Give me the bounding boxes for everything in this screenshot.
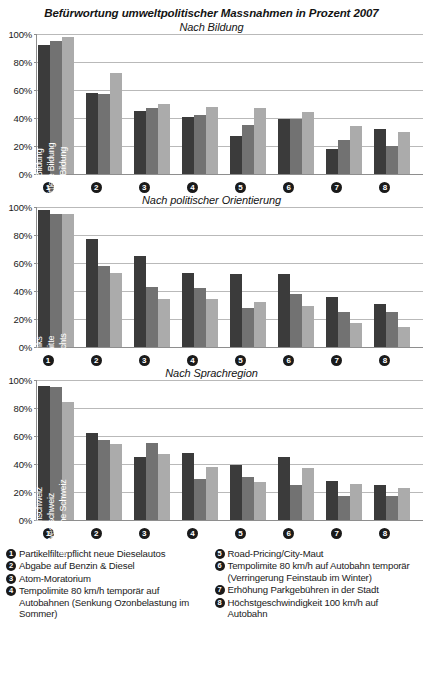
bar-group: [182, 207, 230, 347]
y-axis-tick-label: 100%: [9, 375, 33, 386]
footnote-text: Tempolimite 80 km/h auf Autobahn temporä…: [228, 560, 418, 583]
bar: [242, 125, 254, 174]
category-badge: 6: [283, 182, 294, 193]
bar: [290, 294, 302, 347]
chart-2: Nach politischer Orientierung100%80%60%4…: [0, 194, 423, 367]
x-axis-tick: 6: [278, 520, 326, 540]
bar: [386, 496, 398, 520]
y-axis-tick-label: 60%: [14, 258, 32, 269]
bar: [386, 312, 398, 347]
category-badge: 2: [91, 182, 102, 193]
bar: [146, 443, 158, 520]
bar: Westschweiz: [50, 387, 62, 520]
bar: links: [38, 210, 50, 347]
bar: [134, 256, 146, 347]
bar: [386, 146, 398, 174]
x-axis-tick: 4: [181, 520, 229, 540]
bar: [242, 477, 254, 520]
y-axis-tick-label: 80%: [14, 403, 32, 414]
bar-group: [326, 207, 374, 347]
y-axis-tick-label: 20%: [14, 314, 32, 325]
bar: [326, 481, 338, 520]
bar: [110, 273, 122, 347]
y-axis: 100%80%60%40%20%0%: [0, 34, 36, 174]
x-axis-tick: 8: [374, 174, 422, 194]
bar: [98, 94, 110, 174]
category-badge: 7: [331, 355, 342, 366]
bar: [278, 119, 290, 174]
bar: [398, 327, 410, 347]
plot-area: linksmitterechts: [36, 207, 423, 347]
bar: rechts: [62, 214, 74, 347]
category-badge: 5: [235, 355, 246, 366]
x-axis-tick: 2: [85, 174, 133, 194]
bar-group: [86, 34, 134, 174]
bar: hohe Bildung: [62, 37, 74, 174]
bar-group: tiefe Bildungmittlere Bildunghohe Bildun…: [38, 34, 86, 174]
axis-baseline: [37, 347, 423, 348]
category-badge: 8: [379, 528, 390, 539]
plot-wrapper: 100%80%60%40%20%0%tiefe Bildungmittlere …: [0, 34, 423, 174]
x-axis: 12345678: [36, 520, 423, 540]
bar: [278, 457, 290, 520]
footnote-legend: 1Partikelfilterpflicht neue Dieselautos2…: [0, 540, 423, 620]
axis-baseline: [37, 520, 423, 521]
x-axis-tick: 7: [326, 174, 374, 194]
bar: [182, 273, 194, 347]
bar: [206, 299, 218, 347]
bar: [350, 323, 362, 347]
category-badge: 6: [283, 528, 294, 539]
bar-group: [230, 34, 278, 174]
bar-group: [230, 207, 278, 347]
footnote-column-left: 1Partikelfilterpflicht neue Dieselautos2…: [6, 548, 209, 620]
x-axis-tick: 6: [278, 347, 326, 367]
bar: [98, 266, 110, 347]
bar-group: linksmitterechts: [38, 207, 86, 347]
footnote-column-right: 5Road-Pricing/City-Maut6Tempolimite 80 k…: [215, 548, 418, 620]
bar: [290, 485, 302, 520]
chart-subtitle: Nach politischer Orientierung: [0, 194, 423, 206]
bars-layer: DeutschschweizWestschweizItalienische Sc…: [37, 380, 423, 520]
chart-page: Befürwortung umweltpolitischer Massnahme…: [0, 0, 423, 688]
footnote-badge: 7: [215, 585, 225, 595]
footnote-badge: 4: [6, 586, 16, 596]
category-badge: 4: [187, 355, 198, 366]
bar: [326, 297, 338, 347]
bar: [158, 299, 170, 347]
bar: mittlere Bildung: [50, 41, 62, 174]
y-axis-tick-label: 40%: [14, 286, 32, 297]
x-axis-tick: 3: [133, 347, 181, 367]
bar-group: [86, 207, 134, 347]
bar: [86, 239, 98, 347]
bar-group: [278, 34, 326, 174]
x-axis-tick: 4: [181, 347, 229, 367]
chart-subtitle: Nach Bildung: [0, 21, 423, 33]
category-badge: 2: [91, 528, 102, 539]
x-axis-tick: 8: [374, 347, 422, 367]
bar: [398, 132, 410, 174]
category-badge: 4: [187, 182, 198, 193]
bar-group: [230, 380, 278, 520]
bar: [302, 112, 314, 174]
y-axis: 100%80%60%40%20%0%: [0, 380, 36, 520]
bar-group: DeutschschweizWestschweizItalienische Sc…: [38, 380, 86, 520]
bar: [374, 304, 386, 347]
y-axis-tick-label: 60%: [14, 431, 32, 442]
bar: [302, 468, 314, 520]
x-axis: 12345678: [36, 174, 423, 194]
x-axis-tick: 2: [85, 347, 133, 367]
plot-area: tiefe Bildungmittlere Bildunghohe Bildun…: [36, 34, 423, 174]
bar-group: [134, 34, 182, 174]
footnote-badge: 2: [6, 561, 16, 571]
y-axis-tick-label: 100%: [9, 29, 33, 40]
y-axis-tick-label: 0%: [19, 342, 32, 353]
x-axis-tick: 1: [37, 174, 85, 194]
bar: [182, 117, 194, 174]
category-badge: 1: [43, 528, 54, 539]
chart-subtitle: Nach Sprachregion: [0, 367, 423, 379]
x-axis-tick: 5: [230, 520, 278, 540]
y-axis-tick-label: 40%: [14, 113, 32, 124]
bar: [110, 444, 122, 520]
bar-group: [326, 380, 374, 520]
x-axis-tick: 7: [326, 520, 374, 540]
